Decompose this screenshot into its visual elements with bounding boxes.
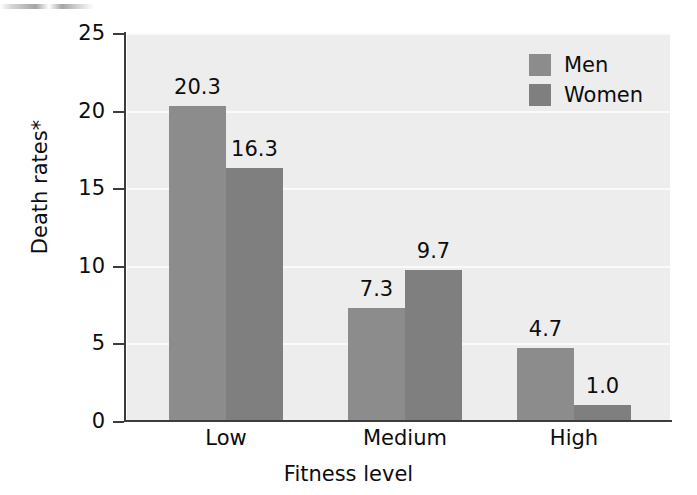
bar-value-low-men: 20.3: [163, 77, 232, 98]
bar-high-women[interactable]: [574, 405, 631, 421]
legend-swatch-women-icon: [529, 84, 551, 106]
y-tick-mark: [113, 266, 124, 268]
bar-medium-men[interactable]: [348, 308, 405, 421]
y-tick-mark: [113, 33, 124, 35]
y-tick-mark: [113, 343, 124, 345]
bar-value-medium-men: 7.3: [342, 279, 411, 300]
y-tick-label: 10: [45, 256, 105, 277]
bar-medium-women[interactable]: [405, 270, 462, 421]
y-tick-mark: [113, 111, 124, 113]
bar-high-men[interactable]: [517, 348, 574, 421]
scan-smudge-artifact: [0, 4, 94, 9]
y-tick-label: 25: [45, 23, 105, 44]
bar-value-medium-women: 9.7: [399, 241, 468, 262]
legend-label-men: Men: [564, 55, 608, 76]
legend-swatch-men-icon: [529, 54, 551, 76]
legend-item-women: Women: [529, 80, 643, 110]
legend-label-women: Women: [564, 85, 643, 106]
bar-chart-figure: 2520151050 Death rates* LowMediumHigh Fi…: [0, 0, 697, 495]
y-axis-line: [124, 32, 126, 422]
gridline: [127, 33, 670, 35]
bar-value-low-women: 16.3: [220, 139, 289, 160]
y-tick-label: 15: [45, 178, 105, 199]
y-tick-mark: [113, 421, 124, 423]
bar-low-men[interactable]: [169, 106, 226, 421]
y-tick-label: 20: [45, 101, 105, 122]
legend: Men Women: [529, 50, 643, 110]
x-tick-label-medium: Medium: [325, 428, 485, 449]
bar-value-high-women: 1.0: [568, 376, 637, 397]
x-axis-line: [124, 420, 672, 422]
y-tick-label: 5: [45, 333, 105, 354]
legend-item-men: Men: [529, 50, 643, 80]
x-tick-label-high: High: [494, 428, 654, 449]
bar-low-women[interactable]: [226, 168, 283, 421]
y-axis-title: Death rates*: [28, 77, 52, 297]
y-tick-label: 0: [45, 411, 105, 432]
bar-value-high-men: 4.7: [511, 319, 580, 340]
x-axis-title: Fitness level: [0, 462, 697, 486]
x-tick-label-low: Low: [146, 428, 306, 449]
y-tick-mark: [113, 188, 124, 190]
